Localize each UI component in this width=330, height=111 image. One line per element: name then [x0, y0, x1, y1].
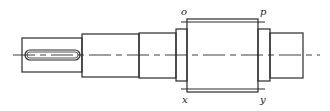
- label-p: p: [260, 6, 267, 17]
- third-segment: [139, 33, 176, 78]
- second-segment: [82, 34, 139, 77]
- label-o: o: [181, 6, 187, 17]
- label-y: y: [259, 94, 266, 105]
- shaft-diagram: o p x y: [0, 0, 330, 111]
- shaft-drawing: o p x y: [0, 0, 330, 111]
- label-x: x: [182, 94, 188, 105]
- right-end-segment: [270, 33, 303, 78]
- main-body: [187, 19, 258, 92]
